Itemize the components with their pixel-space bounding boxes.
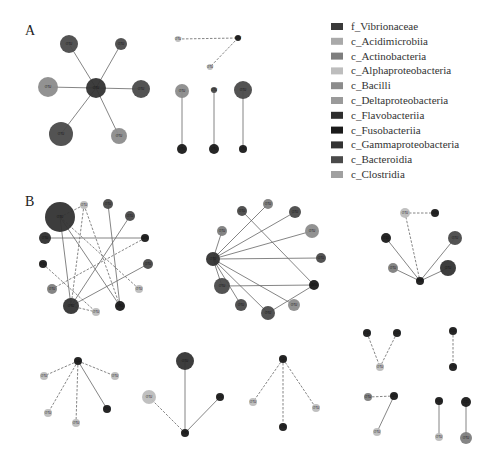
node-label: OTU [436,399,442,403]
figure-canvas: A B OTUOTUOTUOTUOTUOTUOTUOTUOTUOTUOTUOTU… [0,0,496,465]
legend-label: c_Gammaproteobacteria [351,138,459,150]
legend-label: c_Fusobacteriia [351,124,421,136]
panel-label-b: B [25,194,34,209]
node-label: OTU [365,395,371,399]
node-label: OTU [383,236,389,240]
node-label: OTU [42,236,48,240]
node-label: OTU [219,229,225,233]
node-label: OTU [217,395,223,399]
node-label: OTU [432,211,438,215]
node-label: OTU [211,147,217,151]
node-label: OTU [179,89,185,93]
legend-label: c_Alphaproteobacteria [351,64,451,76]
node-label: OTU [93,86,99,90]
legend-swatch [331,156,343,163]
node-label: OTU [313,406,319,410]
node-label: OTU [58,132,64,136]
edge-solid [71,216,130,306]
network-figure: A B OTUOTUOTUOTUOTUOTUOTUOTUOTUOTUOTUOTU… [0,0,496,465]
node-label: OTU [238,303,244,307]
node-label: OTU [265,311,271,315]
node-label: OTU [211,88,217,92]
edge-solid [213,212,295,259]
node-label: OTU [265,202,271,206]
node-label: OTU [142,236,148,240]
node-label: OTU [280,357,286,361]
legend-label: c_Flavobacteriia [351,109,424,121]
node-label: OTU [45,411,51,415]
node-label: OTU [250,400,256,404]
node-label: OTU [41,374,47,378]
legend-label: c_Acidimicrobiia [351,35,428,47]
edge-solid [222,285,314,286]
node-label: OTU [239,209,245,213]
node-label: OTU [235,36,241,40]
legend: f_Vibrionaceaec_Acidimicrobiiac_Actinoba… [331,20,459,180]
edge-solid [386,238,420,281]
legend-label: c_Actinobacteria [351,50,426,62]
node-label: OTU [450,329,456,333]
node-label: OTU [57,215,63,219]
node-label: OTU [318,256,324,260]
edge-dashed [60,217,139,289]
node-label: OTU [219,284,225,288]
node-label: OTU [75,359,81,363]
node-label: OTU [240,147,246,151]
node-label: OTU [45,85,51,89]
edge-dashed [44,361,78,376]
node-label: OTU [117,304,123,308]
node-label: OTU [104,407,110,411]
node-label: OTU [136,287,142,291]
edge-dashed [367,333,380,367]
edge-dashed [76,361,78,423]
node-label: OTU [402,211,408,215]
legend-swatch [331,141,343,148]
node-label: OTU [391,394,397,398]
node-label: OTU [450,365,456,369]
node-label: OTU [127,214,133,218]
edge-dashed [405,213,420,281]
node-label: OTU [374,430,380,434]
edge-dashed [283,359,316,408]
edge-dashed [78,361,115,376]
node-label: OTU [182,359,188,363]
edge-dashed [380,333,397,367]
node-label: OTU [210,257,216,261]
node-label: OTU [81,203,87,207]
edge-solid [185,397,220,433]
node-label: OTU [394,331,400,335]
node-label: OTU [240,88,246,92]
node-label: OTU [73,421,79,425]
node-label: OTU [207,65,213,69]
node-label: OTU [175,37,181,41]
legend-swatch [331,38,343,45]
panel-label-a: A [25,23,36,38]
node-label: OTU [138,87,144,91]
legend-swatch [331,67,343,74]
node-label: OTU [68,304,74,308]
edge-dashed [48,361,78,413]
node-label: OTU [436,435,442,439]
edge-dashed [178,38,238,39]
node-label: OTU [280,425,286,429]
edge-dashed [210,38,238,67]
node-label: OTU [105,202,111,206]
legend-swatch [331,53,343,60]
node-label: OTU [445,266,451,270]
edge-solid [78,361,107,409]
edge-dashed [84,205,120,306]
edge-solid [213,258,321,259]
node-label: OTU [463,436,469,440]
legend-label: c_Bacilli [351,79,391,91]
edge-dashed [149,397,185,433]
legend-swatch [331,97,343,104]
node-label: OTU [309,229,315,233]
edge-solid [377,396,394,432]
legend-swatch [331,171,343,178]
legend-label: c_Deltaproteobacteria [351,94,448,106]
node-label: OTU [417,279,423,283]
edge-dashed [253,359,283,402]
node-label: OTU [40,262,46,266]
node-label: OTU [182,431,188,435]
node-label: OTU [179,147,185,151]
